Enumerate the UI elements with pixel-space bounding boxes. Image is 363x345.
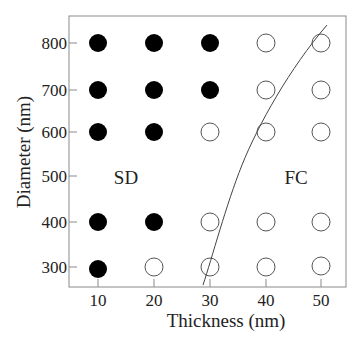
marker-open (312, 257, 330, 275)
marker-filled (201, 81, 219, 99)
marker-filled (145, 213, 163, 231)
region-label-fc: FC (284, 167, 307, 188)
marker-open (145, 258, 163, 276)
marker-filled (89, 213, 107, 231)
region-label-sd: SD (114, 167, 138, 188)
marker-filled (89, 34, 107, 52)
marker-open (257, 213, 275, 231)
marker-open (257, 81, 275, 99)
x-tick-10: 10 (90, 291, 107, 310)
x-axis (98, 279, 321, 287)
marker-open (312, 34, 330, 52)
marker-open (257, 34, 275, 52)
y-tick-300: 300 (42, 258, 68, 277)
marker-open (312, 213, 330, 231)
marker-filled (145, 34, 163, 52)
marker-open (201, 213, 219, 231)
marker-filled (201, 34, 219, 52)
marker-open (312, 81, 330, 99)
y-axis (69, 43, 77, 267)
plot-frame (69, 16, 346, 287)
x-tick-labels: 10 20 30 40 50 (90, 291, 330, 310)
phase-boundary-curve (203, 25, 327, 285)
marker-filled (89, 260, 107, 278)
marker-open (312, 123, 330, 141)
marker-open (201, 123, 219, 141)
open-markers (145, 34, 330, 276)
y-tick-labels: 800 700 600 500 400 300 (42, 34, 68, 277)
y-tick-800: 800 (42, 34, 68, 53)
marker-filled (145, 123, 163, 141)
y-tick-400: 400 (42, 213, 68, 232)
phase-diagram-chart: 800 700 600 500 400 300 10 20 30 40 50 T… (0, 0, 363, 345)
x-tick-20: 20 (146, 291, 163, 310)
y-tick-500: 500 (42, 167, 68, 186)
marker-filled (89, 81, 107, 99)
filled-markers (89, 34, 219, 278)
y-tick-700: 700 (42, 81, 68, 100)
marker-open (257, 258, 275, 276)
x-tick-30: 30 (202, 291, 219, 310)
marker-open (201, 258, 219, 276)
marker-filled (89, 123, 107, 141)
marker-filled (145, 81, 163, 99)
y-tick-600: 600 (42, 123, 68, 142)
y-axis-label: Diameter (nm) (13, 96, 35, 208)
x-tick-40: 40 (258, 291, 275, 310)
x-axis-label: Thickness (nm) (167, 310, 286, 332)
x-tick-50: 50 (313, 291, 330, 310)
